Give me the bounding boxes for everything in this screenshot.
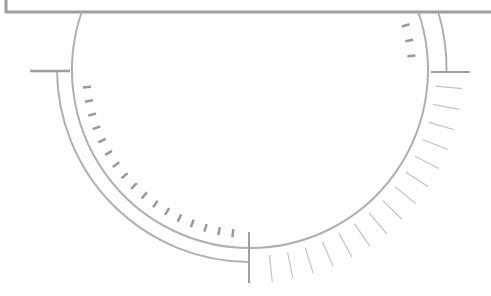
inner-left-ticks xyxy=(83,87,233,237)
gauge-svg xyxy=(0,0,491,296)
outer-tick xyxy=(415,156,439,168)
outer-right-arc xyxy=(438,12,446,72)
outer-tick xyxy=(406,172,429,187)
inner-tick xyxy=(93,126,100,129)
inner-tick xyxy=(83,87,91,88)
inner-tick xyxy=(204,224,206,232)
outer-tick xyxy=(269,255,272,282)
top-frame-line xyxy=(6,0,491,12)
outer-tick xyxy=(339,233,352,257)
outer-ticks xyxy=(269,86,462,282)
inner-right-ticks xyxy=(402,24,415,56)
inner-tick xyxy=(88,113,96,115)
inner-tick xyxy=(153,201,158,208)
gauge-diagram xyxy=(0,0,491,296)
inner-tick xyxy=(405,40,413,41)
inner-arc xyxy=(72,12,428,248)
outer-tick xyxy=(305,248,313,274)
inner-tick xyxy=(105,151,112,155)
outer-tick xyxy=(383,200,402,219)
inner-tick xyxy=(218,227,220,235)
outer-tick xyxy=(423,139,448,149)
frame-border-line xyxy=(6,0,491,12)
outer-tick xyxy=(435,86,462,88)
outer-tick xyxy=(429,122,455,130)
inner-tick xyxy=(85,100,93,102)
inner-tick xyxy=(191,220,194,227)
inner-tick xyxy=(165,208,169,215)
outer-left-arc xyxy=(57,71,249,262)
outer-tick xyxy=(288,252,293,278)
outer-tick xyxy=(322,241,333,266)
outer-tick xyxy=(395,187,416,204)
inner-tick xyxy=(113,162,120,167)
outer-tick xyxy=(433,104,460,109)
inner-tick xyxy=(407,56,415,57)
outer-tick xyxy=(355,224,370,246)
inner-tick xyxy=(178,214,181,221)
inner-tick xyxy=(131,183,137,189)
outer-tick xyxy=(369,213,386,234)
inner-tick xyxy=(232,229,233,237)
inner-tick xyxy=(122,173,128,178)
gauge-arcs xyxy=(30,12,470,283)
inner-tick xyxy=(142,192,147,198)
inner-tick xyxy=(402,24,410,26)
inner-tick xyxy=(98,139,105,142)
